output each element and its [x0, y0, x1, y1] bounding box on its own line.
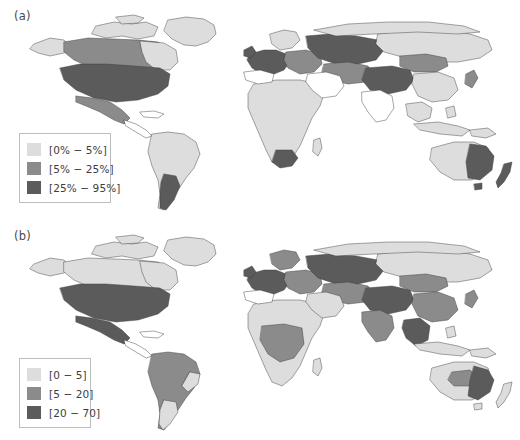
legend-row: [0% − 5%] [27, 140, 101, 159]
region-japan-b [465, 290, 478, 308]
region-japan-a [465, 70, 478, 88]
region-tasmania-a [474, 183, 482, 190]
region-india-a [362, 90, 394, 122]
legend-swatch-low-icon [27, 143, 41, 156]
legend-row: [0 − 5] [27, 365, 81, 384]
legend-panel-a: [0% − 5%] [5% − 25%] [25% − 95%] [19, 133, 111, 203]
region-png-a [470, 128, 496, 138]
region-madagascar-a [313, 138, 322, 156]
region-arctic-islands-b [92, 242, 158, 259]
region-china-east-b [412, 292, 458, 322]
region-philippines-b [446, 326, 456, 338]
region-southeast-asia-b [402, 318, 430, 346]
region-caribbean-b [140, 331, 164, 338]
legend-label: [0 − 5] [49, 369, 87, 381]
figure-root: (a) [0, 0, 520, 440]
legend-label: [20 − 70] [49, 407, 100, 419]
region-india-b [362, 310, 394, 342]
legend-swatch-mid-icon [27, 162, 41, 175]
legend-row: [5 − 20] [27, 384, 81, 403]
region-indonesia-b [414, 342, 470, 356]
region-australia-east-a [466, 144, 494, 180]
region-png-b [470, 348, 496, 358]
region-new-zealand-a [496, 162, 512, 188]
region-tasmania-b [474, 403, 482, 410]
region-southern-cone-a [160, 174, 180, 210]
legend-label: [5 − 20] [49, 388, 94, 400]
legend-panel-b: [0 − 5] [5 − 20] [20 − 70] [19, 358, 91, 428]
region-madagascar-b [313, 358, 322, 376]
region-caribbean-a [140, 111, 164, 118]
region-central-america-a [124, 120, 152, 138]
region-china-west-b [362, 286, 414, 314]
legend-label: [0% − 5%] [49, 144, 107, 156]
region-philippines-a [446, 106, 456, 118]
legend-swatch-high-icon [27, 406, 41, 419]
region-greenland-b [164, 237, 216, 266]
legend-label: [25% − 95%] [49, 182, 120, 194]
legend-swatch-low-icon [27, 368, 41, 381]
legend-label: [5% − 25%] [49, 163, 114, 175]
panel-b: (b) [0, 220, 520, 440]
region-south-africa-a [272, 150, 298, 168]
panel-a: (a) [0, 0, 520, 220]
region-scandinavia-a [270, 30, 300, 50]
legend-row: [20 − 70] [27, 403, 81, 422]
legend-swatch-high-icon [27, 181, 41, 194]
region-indonesia-a [414, 122, 470, 136]
region-arctic-islands-a [92, 22, 158, 39]
region-scandinavia-b [270, 250, 300, 270]
legend-row: [25% − 95%] [27, 178, 101, 197]
legend-swatch-mid-icon [27, 387, 41, 400]
region-southeast-asia-a [406, 102, 432, 122]
legend-row: [5% − 25%] [27, 159, 101, 178]
region-china-west-a [362, 66, 414, 94]
region-new-zealand-b [496, 382, 512, 408]
region-greenland-a [164, 17, 216, 46]
region-central-america-b [124, 340, 152, 358]
region-china-east-a [412, 72, 458, 102]
